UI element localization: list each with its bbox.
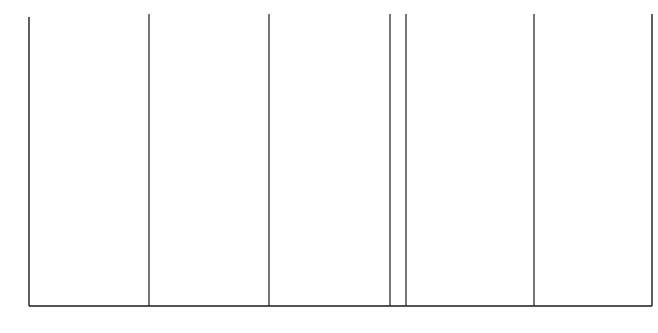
tension-chart [0,0,658,333]
interval-label [389,130,407,220]
